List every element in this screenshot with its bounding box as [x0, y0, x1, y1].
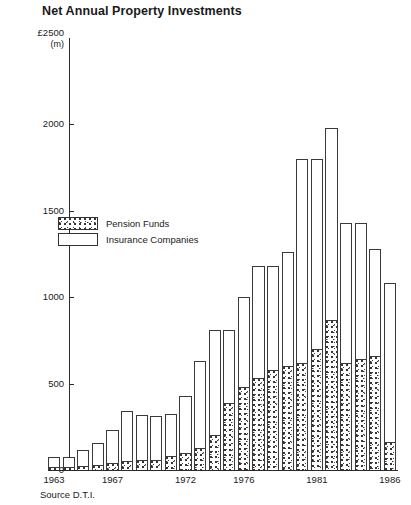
bar-segment-pension-1966 — [92, 465, 104, 470]
legend-item-insurance-companies: Insurance Companies — [58, 231, 198, 247]
bars-layer — [0, 0, 411, 505]
bar-segment-pension-1977 — [252, 378, 264, 470]
bar-segment-pension-1972 — [179, 453, 191, 470]
bar-segment-pension-1964 — [63, 467, 75, 470]
legend-label-pension-funds: Pension Funds — [106, 218, 169, 229]
bar-segment-pension-1976 — [238, 387, 250, 470]
bar-segment-pension-1970 — [150, 460, 162, 470]
bar-segment-pension-1984 — [355, 359, 367, 470]
bar-segment-pension-1973 — [194, 448, 206, 470]
bar-segment-pension-1967 — [106, 463, 118, 470]
bar-segment-pension-1983 — [340, 363, 352, 470]
bar-segment-pension-1985 — [369, 356, 381, 470]
bar-segment-pension-1981 — [311, 349, 323, 470]
bar-segment-pension-1980 — [296, 363, 308, 470]
bar-segment-pension-1975 — [223, 403, 235, 470]
chart-legend: Pension Funds Insurance Companies — [58, 215, 198, 247]
bar-segment-pension-1969 — [136, 460, 148, 470]
legend-swatch-insurance-companies — [58, 233, 98, 246]
bar-segment-pension-1968 — [121, 461, 133, 470]
bar-segment-pension-1974 — [209, 435, 221, 470]
chart-net-annual-property-investments: Net Annual Property Investments £2500 (m… — [0, 0, 411, 505]
bar-segment-pension-1963 — [48, 467, 60, 470]
bar-segment-pension-1986 — [384, 442, 396, 470]
bar-segment-pension-1979 — [282, 366, 294, 470]
bar-segment-pension-1982 — [325, 320, 337, 470]
legend-item-pension-funds: Pension Funds — [58, 215, 198, 231]
bar-segment-pension-1978 — [267, 370, 279, 470]
legend-swatch-pension-funds — [58, 217, 98, 230]
bar-segment-pension-1971 — [165, 456, 177, 470]
source-note: Source D.T.I. — [40, 489, 95, 500]
bar-segment-pension-1965 — [77, 466, 89, 470]
legend-label-insurance-companies: Insurance Companies — [106, 234, 198, 245]
